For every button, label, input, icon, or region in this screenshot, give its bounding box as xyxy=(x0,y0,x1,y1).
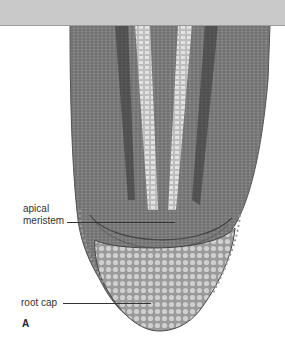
root-cap-label: root cap xyxy=(21,297,57,309)
top-gray-band xyxy=(0,0,285,26)
panel-letter: A xyxy=(22,318,29,329)
root-cap-leader-line xyxy=(63,303,151,304)
apical-meristem-leader-line xyxy=(67,222,175,223)
apical-meristem-label-line1: apical xyxy=(23,203,49,215)
apical-meristem-label-line2: meristem xyxy=(23,215,64,227)
